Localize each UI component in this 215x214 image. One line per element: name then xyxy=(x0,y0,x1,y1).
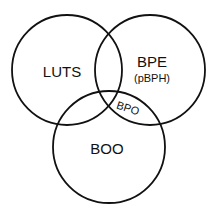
label-luts: LUTS xyxy=(43,63,81,80)
label-bpe: BPE xyxy=(137,53,167,70)
label-boo: BOO xyxy=(90,140,123,157)
label-bpe-sub: (pBPH) xyxy=(134,72,170,84)
venn-diagram: LUTS BPE (pBPH) BOO BPO xyxy=(0,0,215,214)
